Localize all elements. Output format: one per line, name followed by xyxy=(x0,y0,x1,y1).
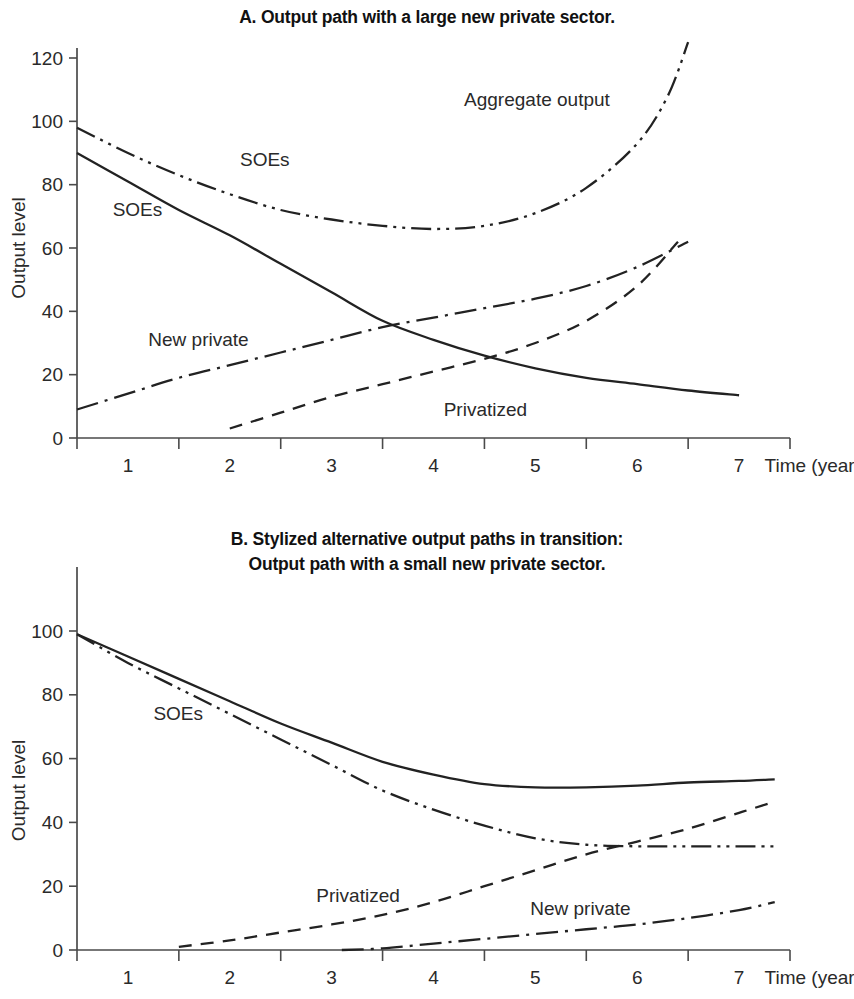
series-curve-soes xyxy=(77,634,775,846)
x-tick-label: 3 xyxy=(326,455,337,476)
x-tick-label: 7 xyxy=(734,455,745,476)
y-tick-label: 100 xyxy=(31,621,63,642)
y-tick-label: 40 xyxy=(42,301,63,322)
x-axis-title: Time (years) xyxy=(765,455,854,476)
y-axis-title: Output level xyxy=(8,740,29,841)
y-axis-title: Output level xyxy=(8,197,29,298)
y-tick-label: 80 xyxy=(42,174,63,195)
series-label-soes: SOEs xyxy=(113,199,163,220)
panel-b-plot: 0204060801001234567Output levelSOEsPriva… xyxy=(0,500,854,999)
y-tick-label: 60 xyxy=(42,748,63,769)
series-label-soes: SOEs xyxy=(240,149,290,170)
series-curve-aggregate-output xyxy=(77,42,688,229)
series-label-privatized: Privatized xyxy=(444,399,527,420)
panel-a-chart: A. Output path with a large new private … xyxy=(0,0,854,500)
y-tick-label: 100 xyxy=(31,111,63,132)
panel-a-plot: 0204060801001201234567Output levelSOEsSO… xyxy=(0,0,854,500)
panel-b-chart: B. Stylized alternative output paths in … xyxy=(0,500,854,999)
series-label-new-private: New private xyxy=(148,329,248,350)
y-tick-label: 120 xyxy=(31,48,63,69)
series-label-privatized: Privatized xyxy=(316,885,399,906)
series-curve-soes xyxy=(77,153,739,395)
x-tick-label: 2 xyxy=(224,455,235,476)
y-tick-label: 0 xyxy=(52,940,63,961)
x-tick-label: 3 xyxy=(326,967,337,988)
y-tick-label: 20 xyxy=(42,364,63,385)
x-tick-label: 7 xyxy=(734,967,745,988)
x-axis-title: Time (years) xyxy=(765,967,854,988)
y-tick-label: 20 xyxy=(42,876,63,897)
x-tick-label: 1 xyxy=(123,967,134,988)
x-tick-label: 6 xyxy=(632,967,643,988)
series-label-aggregate-output: Aggregate output xyxy=(464,89,611,110)
y-tick-label: 80 xyxy=(42,684,63,705)
x-tick-label: 5 xyxy=(530,455,541,476)
y-tick-label: 60 xyxy=(42,238,63,259)
x-tick-label: 4 xyxy=(428,967,439,988)
x-tick-label: 6 xyxy=(632,455,643,476)
y-tick-label: 40 xyxy=(42,812,63,833)
x-tick-label: 2 xyxy=(224,967,235,988)
x-tick-label: 5 xyxy=(530,967,541,988)
x-tick-label: 1 xyxy=(123,455,134,476)
series-label-soes: SOEs xyxy=(153,703,203,724)
x-tick-label: 4 xyxy=(428,455,439,476)
y-tick-label: 0 xyxy=(52,428,63,449)
series-label-new-private: New private xyxy=(530,898,630,919)
